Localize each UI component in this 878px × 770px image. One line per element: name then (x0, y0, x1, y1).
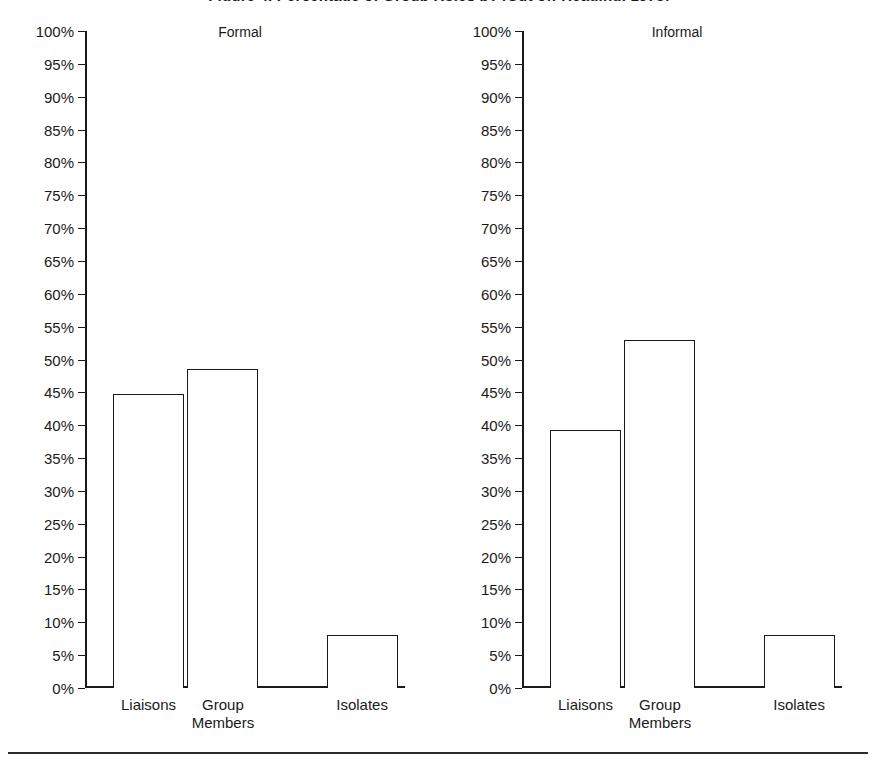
y-axis-tick (515, 228, 522, 229)
y-axis-tick (78, 655, 85, 656)
bottom-divider-rule (8, 752, 868, 754)
y-axis-tick-label: 75% (44, 188, 74, 203)
y-axis-tick (515, 589, 522, 590)
y-axis-tick-label: 50% (44, 352, 74, 367)
y-axis-tick-label: 40% (481, 418, 511, 433)
y-axis-tick (515, 195, 522, 196)
y-axis-tick (78, 425, 85, 426)
y-axis-tick-label: 55% (481, 319, 511, 334)
y-axis-tick (78, 688, 85, 689)
y-axis-tick-label: 5% (489, 648, 511, 663)
bar (764, 635, 835, 688)
bar (113, 394, 184, 688)
y-axis-tick-label: 25% (481, 516, 511, 531)
y-axis-tick-label: 0% (52, 681, 74, 696)
plot-area-formal: 100%95%90%85%80%75%70%65%60%55%50%45%40%… (85, 31, 405, 688)
y-axis-tick-label: 85% (44, 122, 74, 137)
x-axis-category-label: Group Members (192, 696, 255, 733)
y-axis-tick (78, 162, 85, 163)
y-axis-tick-label: 70% (44, 221, 74, 236)
y-axis-tick (515, 655, 522, 656)
y-axis-tick-label: 90% (481, 89, 511, 104)
y-axis-tick-label: 20% (44, 549, 74, 564)
y-axis-tick-label: 65% (44, 253, 74, 268)
y-axis-tick-label: 20% (481, 549, 511, 564)
y-axis-tick-label: 45% (481, 385, 511, 400)
y-axis-tick (78, 622, 85, 623)
x-axis-category-label: Liaisons (121, 696, 176, 714)
x-axis-category-label: Isolates (336, 696, 388, 714)
y-axis-tick-label: 100% (473, 24, 511, 39)
y-axis-tick (78, 31, 85, 32)
chart-panel-formal: Formal 100%95%90%85%80%75%70%65%60%55%50… (0, 0, 439, 770)
y-axis-tick-label: 5% (52, 648, 74, 663)
bar (624, 340, 695, 688)
y-axis-tick-label: 70% (481, 221, 511, 236)
chart-panel-informal: Informal 100%95%90%85%80%75%70%65%60%55%… (439, 0, 878, 770)
y-axis-tick-label: 90% (44, 89, 74, 104)
y-axis-tick-label: 95% (44, 56, 74, 71)
x-axis-category-label: Group Members (629, 696, 692, 733)
bar (327, 635, 398, 688)
y-axis-tick-label: 35% (44, 451, 74, 466)
y-axis-tick-label: 85% (481, 122, 511, 137)
y-axis-tick (515, 622, 522, 623)
y-axis-tick (78, 524, 85, 525)
y-axis-tick-label: 50% (481, 352, 511, 367)
y-axis-tick (515, 162, 522, 163)
y-axis-tick (78, 97, 85, 98)
y-axis-tick (78, 294, 85, 295)
y-axis-tick (515, 294, 522, 295)
y-axis-tick-label: 60% (481, 286, 511, 301)
y-axis-spine (522, 31, 524, 688)
y-axis-tick-label: 25% (44, 516, 74, 531)
y-axis-tick (515, 31, 522, 32)
y-axis-tick-label: 10% (481, 615, 511, 630)
y-axis-tick (515, 97, 522, 98)
y-axis-tick (515, 327, 522, 328)
plot-area-informal: 100%95%90%85%80%75%70%65%60%55%50%45%40%… (522, 31, 842, 688)
y-axis-tick-label: 30% (481, 483, 511, 498)
y-axis-tick (515, 261, 522, 262)
y-axis-tick (515, 524, 522, 525)
y-axis-tick (78, 458, 85, 459)
x-axis-category-label: Isolates (773, 696, 825, 714)
y-axis-tick (515, 425, 522, 426)
y-axis-tick-label: 65% (481, 253, 511, 268)
y-axis-tick-label: 10% (44, 615, 74, 630)
y-axis-tick-label: 75% (481, 188, 511, 203)
x-axis-category-label: Liaisons (558, 696, 613, 714)
y-axis-tick (78, 557, 85, 558)
y-axis-tick (78, 130, 85, 131)
y-axis-tick-label: 80% (481, 155, 511, 170)
bar (550, 430, 621, 688)
y-axis-tick (515, 392, 522, 393)
y-axis-tick (515, 491, 522, 492)
y-axis-tick (78, 195, 85, 196)
y-axis-tick (515, 360, 522, 361)
y-axis-tick-label: 15% (44, 582, 74, 597)
y-axis-spine (85, 31, 87, 688)
y-axis-tick-label: 35% (481, 451, 511, 466)
y-axis-tick (78, 392, 85, 393)
y-axis-tick-label: 0% (489, 681, 511, 696)
y-axis-tick (515, 130, 522, 131)
y-axis-tick (78, 327, 85, 328)
y-axis-tick (78, 228, 85, 229)
y-axis-tick (515, 688, 522, 689)
y-axis-tick (78, 64, 85, 65)
y-axis-tick-label: 40% (44, 418, 74, 433)
y-axis-tick-label: 30% (44, 483, 74, 498)
y-axis-tick-label: 55% (44, 319, 74, 334)
y-axis-tick (515, 458, 522, 459)
y-axis-tick (78, 491, 85, 492)
y-axis-tick-label: 15% (481, 582, 511, 597)
bar (187, 369, 258, 688)
y-axis-tick (78, 261, 85, 262)
y-axis-tick (78, 589, 85, 590)
y-axis-tick (78, 360, 85, 361)
y-axis-tick-label: 95% (481, 56, 511, 71)
y-axis-tick-label: 100% (36, 24, 74, 39)
y-axis-tick-label: 60% (44, 286, 74, 301)
y-axis-tick-label: 80% (44, 155, 74, 170)
